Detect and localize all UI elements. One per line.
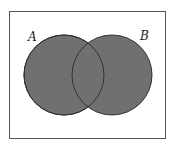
set-a-label: A	[27, 30, 37, 44]
set-b-label: B	[139, 29, 149, 43]
set-b-circle	[72, 35, 152, 115]
venn-diagram: A B	[0, 0, 175, 144]
